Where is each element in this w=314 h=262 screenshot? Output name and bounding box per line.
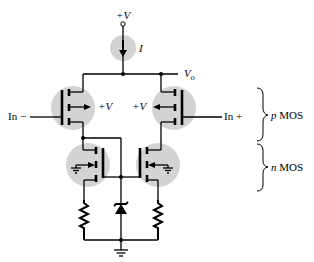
supply-terminal-icon bbox=[121, 22, 125, 26]
pmos-left-body-label: +V bbox=[98, 101, 112, 112]
input-inverting-label: In − bbox=[8, 111, 26, 122]
current-source-label: I bbox=[139, 43, 143, 54]
ground-icon bbox=[114, 240, 128, 256]
supply-label: +V bbox=[116, 10, 130, 21]
pmos-right-body-label: +V bbox=[132, 101, 146, 112]
pmos-brace-icon bbox=[257, 88, 268, 141]
nmos-group-label: n MOS bbox=[271, 162, 303, 173]
nmos-brace-icon bbox=[257, 144, 268, 191]
resistor-left-icon bbox=[80, 200, 88, 240]
zener-diode-icon bbox=[114, 177, 128, 240]
pmos-group-label: p MOS bbox=[271, 110, 303, 121]
input-noninverting-label: In + bbox=[224, 111, 242, 122]
circuit-diagram bbox=[0, 0, 314, 262]
resistor-right-icon bbox=[154, 200, 162, 240]
output-label: Vo bbox=[184, 68, 195, 82]
